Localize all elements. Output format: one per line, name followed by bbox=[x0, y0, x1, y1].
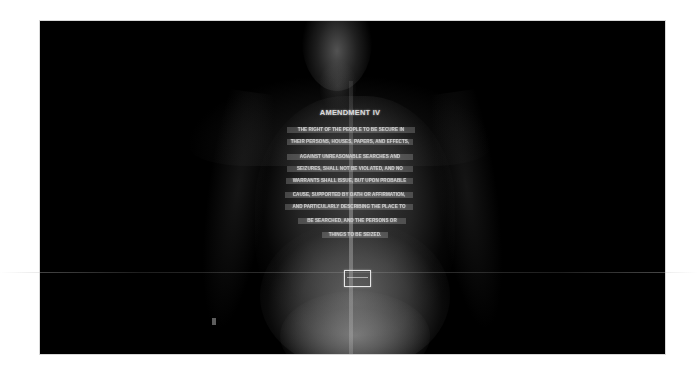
spine bbox=[349, 81, 353, 354]
left-arm bbox=[189, 88, 282, 334]
torso bbox=[255, 96, 455, 336]
shoulders bbox=[190, 76, 490, 166]
neck bbox=[320, 61, 356, 111]
skull bbox=[302, 21, 372, 91]
abdomen bbox=[260, 221, 450, 354]
right-arm bbox=[424, 88, 517, 334]
page: AMENDMENT IV The right of the people to … bbox=[0, 0, 698, 375]
pelvis bbox=[280, 291, 430, 354]
rectangular-implant-icon bbox=[344, 270, 371, 287]
side-marker-icon bbox=[212, 318, 216, 325]
xray-image bbox=[40, 21, 665, 354]
